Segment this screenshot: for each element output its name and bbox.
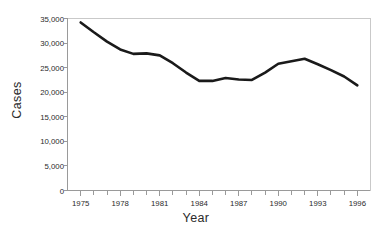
plot-area (0, 0, 392, 239)
data-line-cases (81, 22, 358, 85)
x-axis-ticks (81, 191, 358, 196)
y-axis-ticks (64, 19, 68, 191)
x-axis-title: Year (0, 211, 392, 225)
chart-figure: Cases 05,00010,00015,00020,00025,00030,0… (0, 0, 392, 239)
